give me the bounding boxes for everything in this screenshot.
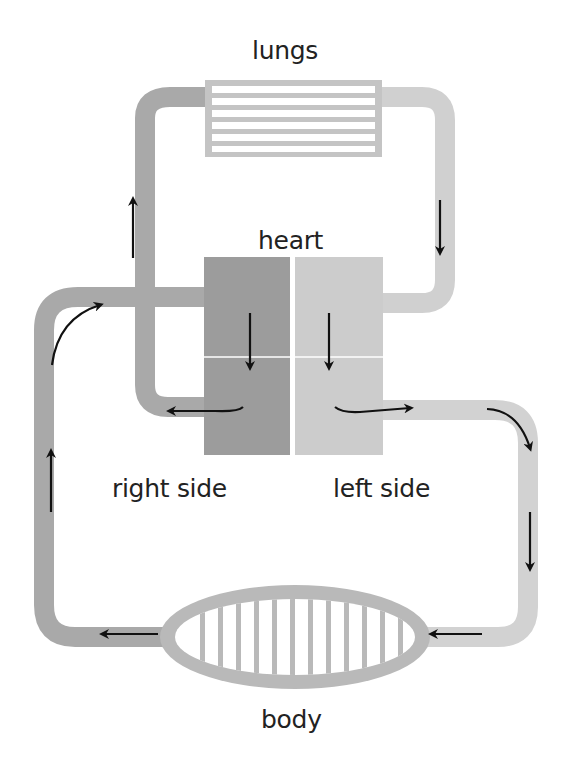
label-heart: heart — [258, 228, 323, 253]
circulation-diagram: lungs heart right side left side body — [0, 0, 577, 778]
heart-right-side — [204, 257, 290, 455]
body-organ — [160, 585, 430, 690]
pulmonary-vein-tube — [380, 97, 445, 303]
heart-left-side — [295, 257, 383, 455]
arrow-into-right-atrium — [52, 305, 100, 365]
label-right-side: right side — [112, 476, 227, 501]
heart-organ — [204, 257, 383, 455]
circulation-svg — [0, 0, 577, 778]
lungs-organ — [205, 80, 382, 157]
label-left-side: left side — [333, 476, 430, 501]
label-lungs: lungs — [252, 38, 318, 63]
aorta-tube — [383, 410, 528, 637]
vena-cava-tube — [44, 297, 204, 637]
pulmonary-artery-tube — [145, 97, 210, 407]
label-body: body — [261, 707, 322, 732]
